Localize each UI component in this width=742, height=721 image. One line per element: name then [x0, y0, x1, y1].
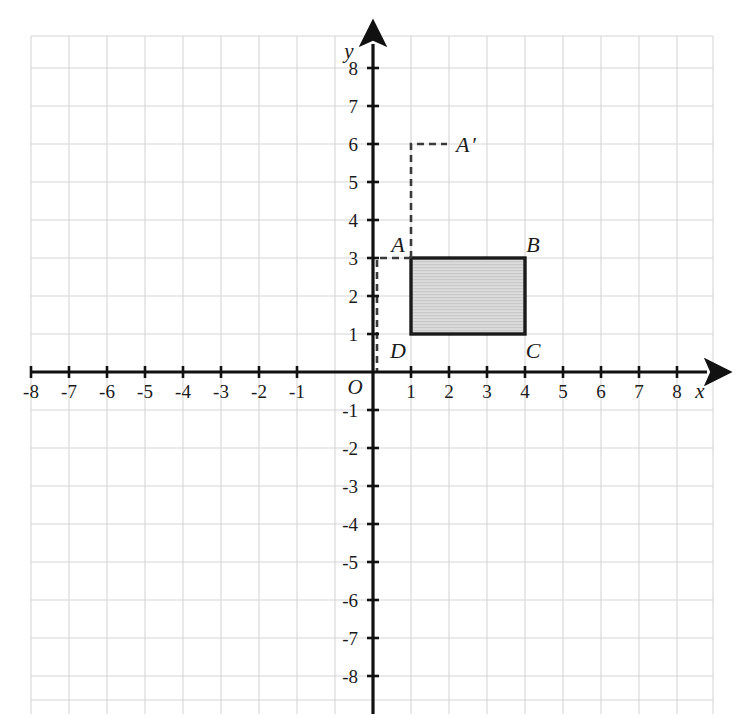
- x-tick-label: 2: [444, 381, 454, 402]
- y-tick-label: 4: [349, 210, 359, 231]
- y-tick-label: 3: [349, 248, 359, 269]
- y-tick-label: -8: [342, 666, 358, 687]
- origin-label: O: [347, 375, 362, 399]
- x-tick-label: -5: [137, 381, 153, 402]
- vertex-label-d: D: [389, 338, 406, 363]
- vertex-label-c: C: [526, 338, 541, 363]
- y-tick-label: -6: [342, 590, 358, 611]
- x-tick-label: -1: [289, 381, 305, 402]
- vertex-label-a-prime-letter: A: [454, 132, 470, 157]
- canvas-background: [0, 0, 742, 721]
- y-tick-label: -5: [342, 552, 358, 573]
- coordinate-plane-figure: -8 -7 -6 -5 -4 -3 -2 -1 1 2 3 4 5 6 7 8 …: [0, 0, 742, 721]
- x-tick-label: 7: [634, 381, 644, 402]
- x-tick-label: -3: [213, 381, 229, 402]
- vertex-label-a-prime: A ′: [454, 132, 477, 157]
- y-tick-label: 5: [349, 172, 359, 193]
- x-tick-label: 6: [596, 381, 606, 402]
- y-axis-label: y: [342, 39, 354, 63]
- y-tick-label: -7: [342, 628, 358, 649]
- y-tick-label: -2: [342, 438, 358, 459]
- x-tick-label: -4: [175, 381, 191, 402]
- y-tick-label: 2: [349, 286, 359, 307]
- x-tick-label: 4: [520, 381, 530, 402]
- y-tick-label: -4: [342, 514, 358, 535]
- y-tick-label: 6: [349, 134, 359, 155]
- x-tick-label: -7: [61, 381, 77, 402]
- vertex-label-a: A: [389, 232, 405, 257]
- x-tick-label: 8: [672, 381, 682, 402]
- x-tick-label: 1: [406, 381, 416, 402]
- coordinate-plane-svg: -8 -7 -6 -5 -4 -3 -2 -1 1 2 3 4 5 6 7 8 …: [0, 0, 742, 721]
- y-tick-label: 1: [349, 324, 359, 345]
- y-tick-label: 7: [349, 96, 359, 117]
- x-tick-label: 3: [482, 381, 492, 402]
- rectangle-abcd-shape: [411, 258, 525, 334]
- x-tick-label: -8: [23, 381, 39, 402]
- y-tick-label: -1: [342, 400, 358, 421]
- vertex-label-b: B: [526, 232, 539, 257]
- rectangle-abcd: [411, 258, 525, 334]
- x-tick-label: -6: [99, 381, 115, 402]
- x-tick-label: -2: [251, 381, 267, 402]
- y-tick-label: -3: [342, 476, 358, 497]
- x-tick-label: 5: [558, 381, 568, 402]
- x-axis-label: x: [694, 379, 705, 403]
